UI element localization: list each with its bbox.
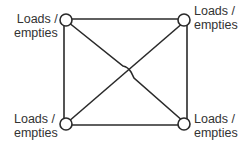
label-line2: empties [194, 18, 238, 32]
node-top-right [178, 14, 190, 26]
label-line2: empties [14, 26, 58, 40]
node-bottom-right [178, 118, 190, 130]
label-line1: Loads / [14, 112, 58, 126]
label-top-left: Loads / empties [14, 12, 58, 40]
label-line2: empties [194, 126, 238, 140]
label-bottom-right: Loads / empties [194, 112, 238, 140]
label-top-right: Loads / empties [194, 4, 238, 32]
label-line1: Loads / [194, 112, 238, 126]
label-line2: empties [14, 126, 58, 140]
label-line1: Loads / [14, 12, 58, 26]
label-bottom-left: Loads / empties [14, 112, 58, 140]
node-bottom-left [60, 118, 72, 130]
node-top-left [60, 14, 72, 26]
label-line1: Loads / [194, 4, 238, 18]
